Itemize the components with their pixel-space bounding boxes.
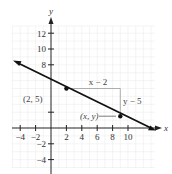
y-tick-label: −4 [36,155,46,165]
run-label: x − 2 [89,77,108,87]
y-tick-label: 12 [37,29,46,39]
x-tick-label: 8 [110,132,115,142]
rise-label: y − 5 [123,96,142,106]
y-tick-label: 10 [37,44,47,54]
x-tick-label: 6 [95,132,100,142]
y-tick-label: −2 [36,139,46,149]
y-axis-arrow-icon [49,17,54,24]
point-x-y-label: (x, y) [80,111,98,121]
x-axis-arrow-icon [155,126,162,131]
coordinate-plane-figure: −4 −2 2 4 6 8 10 12 10 8 −2 −4 x y x − 2… [0,0,172,174]
x-tick-label: 4 [80,132,85,142]
y-tick-label: 8 [42,60,47,70]
x-tick-label: 10 [124,132,134,142]
x-tick-label: −4 [15,132,25,142]
point-2-5 [64,86,68,90]
point-2-5-label: (2, 5) [23,94,43,104]
x-axis-label: x [163,123,168,133]
point-x-y [118,114,122,118]
y-axis-label: y [48,6,53,16]
x-tick-label: 2 [64,132,69,142]
